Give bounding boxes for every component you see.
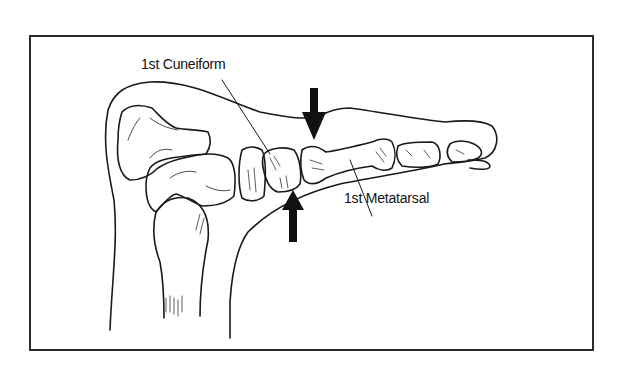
cuneiform-leader-line: [222, 80, 270, 154]
navicular-bone: [239, 147, 265, 201]
calcaneus-bone: [118, 105, 211, 180]
label-1st-cuneiform: 1st Cuneiform: [141, 56, 226, 72]
tibia-bone: [154, 198, 208, 318]
distal-phalanx-bone: [447, 141, 481, 162]
proximal-phalanx-bone: [397, 142, 440, 167]
label-1st-metatarsal: 1st Metatarsal: [344, 190, 429, 206]
foot-illustration: [0, 0, 620, 372]
arrow-down-icon: [302, 88, 326, 140]
talus-bone: [146, 154, 235, 212]
first-cuneiform-bone: [263, 148, 301, 192]
